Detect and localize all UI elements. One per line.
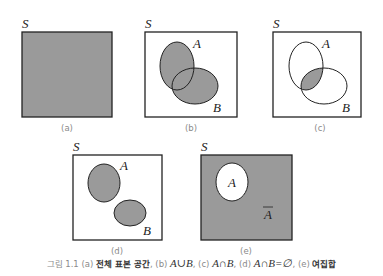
set-a-label-c: A: [321, 36, 330, 51]
caption-a-text: 전체 표본 공간: [96, 259, 150, 269]
caption-b-sep: , (b): [150, 259, 170, 269]
panel-a: S (a): [22, 16, 112, 133]
universe-label-b: S: [145, 16, 152, 31]
panel-e: S A A (e): [201, 139, 292, 256]
sub-caption-d: (d): [111, 246, 123, 256]
panel-d: S A B (d): [73, 139, 162, 256]
panel-b: S A B (b): [145, 16, 237, 133]
caption-d-math: A∩B=∅: [254, 257, 293, 269]
sample-space-box-e: [201, 155, 292, 240]
set-b-label-c: B: [342, 100, 350, 115]
caption-c-math: A∩B: [212, 257, 233, 269]
universe-label-a: S: [22, 16, 29, 31]
sub-caption-c: (c): [314, 123, 325, 133]
caption-e-text: 여집합: [312, 259, 336, 269]
universe-label-e: S: [201, 139, 208, 154]
set-a-label-e: A: [227, 175, 236, 190]
caption-b-math: A∪B: [170, 257, 193, 269]
caption-c-sep: , (c): [193, 259, 212, 269]
set-b-label-d: B: [143, 223, 151, 238]
caption-e-sep: , (e): [292, 259, 312, 269]
complement-label-e: A: [263, 207, 272, 222]
sub-caption-e: (e): [240, 246, 252, 256]
set-a-d: [88, 164, 120, 202]
caption-prefix: 그림 1.1 (a): [47, 259, 96, 269]
set-b-d: [114, 200, 146, 226]
venn-diagram-figure: S (a) S A B (b) S A B (c) S A B (d) S: [0, 0, 383, 276]
panel-c: S A B (c): [273, 16, 361, 133]
figure-caption: 그림 1.1 (a) 전체 표본 공간, (b) A∪B, (c) A∩B, (…: [0, 257, 383, 270]
universe-label-d: S: [73, 139, 80, 154]
set-a-label-b: A: [192, 36, 201, 51]
universe-label-c: S: [273, 16, 280, 31]
sample-space-box-a: [22, 32, 112, 117]
caption-d-sep: , (d): [234, 259, 254, 269]
sub-caption-a: (a): [61, 123, 73, 133]
sub-caption-b: (b): [185, 123, 197, 133]
set-a-label-d: A: [119, 158, 128, 173]
set-b-label-b: B: [213, 100, 221, 115]
